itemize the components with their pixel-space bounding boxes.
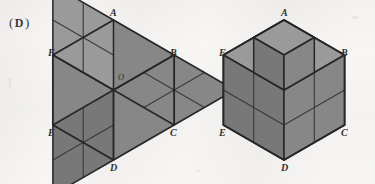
left-vertex-label-B: B <box>170 48 177 58</box>
right-vertex-label-C: C <box>341 128 348 138</box>
left-figure <box>53 0 235 184</box>
right-vertex-label-E: E <box>219 128 226 138</box>
left-vertex-label-E: E <box>48 128 55 138</box>
left-center-label-O: O <box>118 73 124 82</box>
geometry-figures <box>0 0 375 184</box>
right-vertex-label-F: F <box>219 48 226 58</box>
right-vertex-label-B: B <box>341 48 348 58</box>
left-vertex-label-D: D <box>110 163 117 173</box>
right-vertex-label-A: A <box>281 8 288 18</box>
left-vertex-label-A: A <box>110 8 117 18</box>
figure-page: (D) A B C D E F O A B C D E F <box>0 0 375 184</box>
right-vertex-label-D: D <box>281 163 288 173</box>
left-vertex-label-C: C <box>170 128 177 138</box>
left-vertex-label-F: F <box>48 48 55 58</box>
right-figure <box>223 20 344 160</box>
